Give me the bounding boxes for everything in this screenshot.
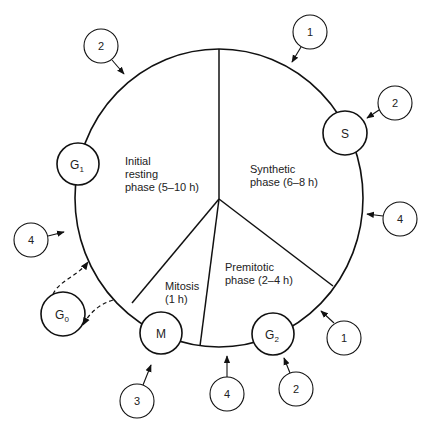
phase-label-s: Synthetic phase (6–8 h): [250, 163, 318, 188]
marker-right-upper: 2: [367, 86, 412, 120]
node-m: M: [140, 312, 182, 354]
svg-text:2: 2: [293, 383, 299, 395]
marker-right: 4: [367, 202, 417, 236]
marker-left: 4: [14, 223, 64, 257]
marker-top: 1: [292, 15, 327, 62]
marker-bottom-right: 1: [321, 311, 361, 355]
marker-bottom: 4: [210, 356, 244, 411]
svg-text:3: 3: [134, 395, 140, 407]
svg-text:1: 1: [341, 332, 347, 344]
svg-text:2: 2: [392, 97, 398, 109]
svg-text:4: 4: [28, 234, 34, 246]
svg-text:4: 4: [224, 388, 230, 400]
marker-top-left: 2: [84, 29, 124, 74]
marker-bottom-left: 3: [120, 365, 154, 418]
svg-text:4: 4: [397, 213, 403, 225]
marker-bottom-right2: 2: [279, 358, 313, 406]
svg-text:M: M: [156, 327, 166, 341]
phase-label-g2: Premitotic phase (2–4 h): [225, 261, 293, 286]
node-s: S: [323, 111, 367, 155]
node-g1: G1: [57, 143, 99, 185]
node-g2: G2: [252, 313, 294, 355]
phase-dividers: [132, 49, 333, 346]
phase-label-m: Mitosis (1 h): [165, 280, 202, 305]
svg-text:2: 2: [98, 40, 104, 52]
svg-text:S: S: [341, 127, 349, 141]
cell-cycle-diagram: Initial resting phase (5–10 h) Synthetic…: [0, 0, 428, 429]
phase-label-g1: Initial resting phase (5–10 h): [125, 155, 199, 193]
svg-text:1: 1: [307, 26, 313, 38]
node-g0: G0: [41, 292, 85, 336]
